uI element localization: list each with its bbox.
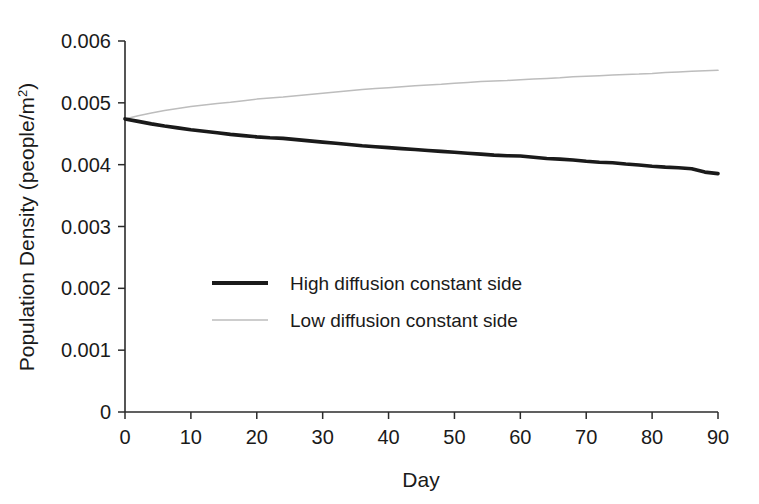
y-tick-label: 0.001 — [61, 339, 111, 361]
chart-canvas: 00.0010.0020.0030.0040.0050.006 01020304… — [0, 0, 759, 504]
x-axis-title: Day — [402, 468, 440, 491]
y-axis-ticks: 00.0010.0020.0030.0040.0050.006 — [61, 30, 125, 423]
x-tick-label: 0 — [119, 426, 130, 448]
x-tick-label: 80 — [641, 426, 663, 448]
y-axis-title: Population Density (people/m2) — [15, 83, 39, 372]
x-tick-label: 60 — [509, 426, 531, 448]
y-tick-label: 0.006 — [61, 30, 111, 52]
x-tick-label: 10 — [180, 426, 202, 448]
x-tick-label: 90 — [707, 426, 729, 448]
y-tick-label: 0.005 — [61, 92, 111, 114]
y-tick-label: 0 — [100, 401, 111, 423]
y-axis-title-superscript: 2 — [15, 90, 30, 97]
y-tick-label: 0.004 — [61, 154, 111, 176]
y-axis-title-main: Population Density (people/m — [15, 97, 38, 371]
series-line-low-diffusion — [125, 70, 718, 119]
x-tick-label: 30 — [312, 426, 334, 448]
x-tick-label: 50 — [443, 426, 465, 448]
chart-figure: 00.0010.0020.0030.0040.0050.006 01020304… — [0, 0, 759, 504]
y-axis-title-close: ) — [15, 83, 38, 90]
series-line-high-diffusion — [125, 119, 718, 174]
y-tick-label: 0.003 — [61, 216, 111, 238]
y-tick-label: 0.002 — [61, 277, 111, 299]
legend-label-high-diffusion: High diffusion constant side — [290, 273, 522, 294]
x-tick-label: 20 — [246, 426, 268, 448]
legend-label-low-diffusion: Low diffusion constant side — [290, 310, 518, 331]
x-axis-ticks: 0102030405060708090 — [119, 412, 729, 448]
x-tick-label: 40 — [377, 426, 399, 448]
chart-legend: High diffusion constant side Low diffusi… — [212, 273, 522, 331]
x-tick-label: 70 — [575, 426, 597, 448]
